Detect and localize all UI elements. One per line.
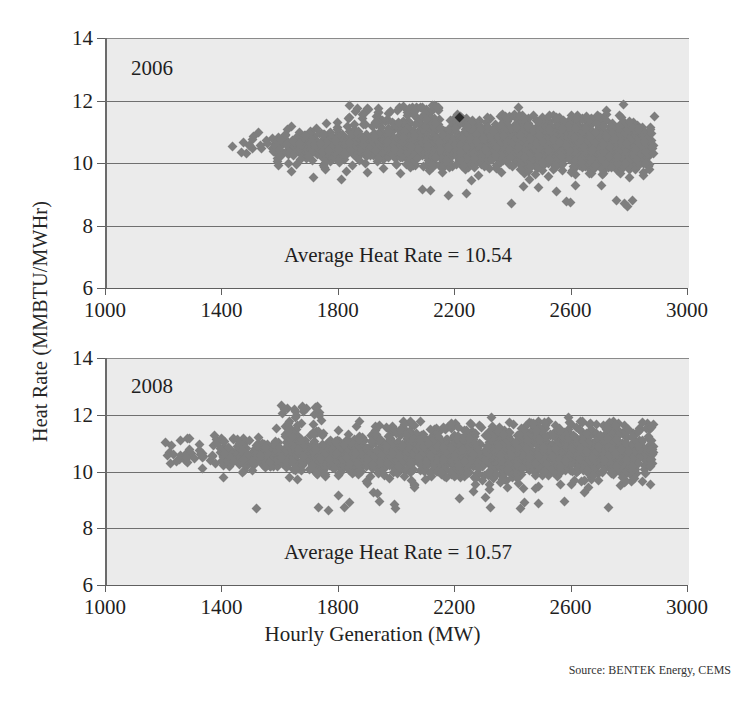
gridline-y-8	[107, 528, 689, 529]
y-tick-14	[97, 38, 105, 39]
y-tick-10	[97, 163, 105, 164]
y-tick-12	[97, 101, 105, 102]
x-axis-2006	[105, 288, 687, 289]
scatter-point	[552, 186, 562, 196]
scatter-point	[518, 181, 528, 191]
annotation-average-2008: Average Heat Rate = 10.57	[284, 540, 512, 565]
panel-2006: 2006 Average Heat Rate = 10.54	[105, 38, 689, 288]
scatter-point	[374, 497, 384, 507]
scatter-point	[333, 426, 343, 436]
x-tick-label-1800: 1800	[317, 298, 359, 323]
scatter-point	[314, 503, 324, 513]
scatter-point	[334, 490, 344, 500]
scatter-point	[379, 164, 389, 174]
y-tick-label-14: 14	[53, 26, 93, 51]
x-tick-label-2600: 2600	[550, 595, 592, 620]
y-tick-label-14: 14	[53, 346, 93, 371]
gridline-y-12	[107, 415, 689, 416]
panel-label-2008: 2008	[131, 374, 173, 399]
x-tick-2600	[571, 288, 572, 295]
x-tick-label-1800: 1800	[317, 595, 359, 620]
y-tick-14	[97, 358, 105, 359]
x-tick-label-2200: 2200	[433, 595, 475, 620]
scatter-point	[252, 503, 262, 513]
y-tick-8	[97, 226, 105, 227]
gridline-y-12	[107, 101, 689, 102]
x-tick-label-3000: 3000	[666, 298, 708, 323]
x-tick-3000	[687, 585, 688, 592]
scatter-point	[324, 505, 334, 515]
x-tick-label-1400: 1400	[200, 595, 242, 620]
y-tick-6	[97, 585, 105, 586]
scatter-point	[557, 166, 567, 176]
scatter-point	[559, 497, 569, 507]
scatter-point	[219, 473, 229, 483]
scatter-point	[506, 199, 516, 209]
panel-2008: 2008 Average Heat Rate = 10.57	[105, 358, 689, 585]
x-tick-label-3000: 3000	[666, 595, 708, 620]
scatter-point	[395, 169, 405, 179]
scatter-point	[649, 111, 659, 121]
scatter-point	[444, 190, 454, 200]
scatter-point	[426, 186, 436, 196]
x-tick-3000	[687, 288, 688, 295]
x-tick-label-2600: 2600	[550, 298, 592, 323]
y-tick-12	[97, 415, 105, 416]
x-tick-label-1000: 1000	[84, 595, 126, 620]
y-tick-label-12: 12	[53, 402, 93, 427]
x-tick-label-1000: 1000	[84, 298, 126, 323]
scatter-point	[462, 188, 472, 198]
scatter-point	[485, 502, 495, 512]
gridline-y-8	[107, 226, 689, 227]
y-tick-8	[97, 528, 105, 529]
x-axis-2008	[105, 585, 687, 586]
y-tick-label-12: 12	[53, 88, 93, 113]
y-tick-label-10: 10	[53, 459, 93, 484]
y-axis-title: Heat Rate (MMBTU/MWHr)	[29, 132, 52, 512]
y-tick-10	[97, 472, 105, 473]
x-tick-1800	[338, 288, 339, 295]
scatter-point	[534, 498, 544, 508]
y-tick-label-10: 10	[53, 151, 93, 176]
x-tick-1800	[338, 585, 339, 592]
scatter-point	[455, 493, 465, 503]
figure-scatter-heat-rate: Heat Rate (MMBTU/MWHr) 2006 Average Heat…	[0, 0, 745, 712]
x-axis-title: Hourly Generation (MW)	[0, 622, 745, 647]
x-tick-1400	[221, 585, 222, 592]
scatter-point	[228, 141, 238, 151]
scatter-point	[533, 183, 543, 193]
scatter-point	[363, 168, 373, 178]
source-note: Source: BENTEK Energy, CEMS	[569, 663, 731, 678]
y-tick-label-6: 6	[53, 573, 93, 598]
x-tick-1400	[221, 288, 222, 295]
gridline-y-14	[107, 38, 689, 39]
panel-label-2006: 2006	[131, 56, 173, 81]
scatter-point	[570, 180, 580, 190]
x-tick-label-2200: 2200	[433, 298, 475, 323]
x-tick-label-1400: 1400	[200, 298, 242, 323]
scatter-point	[309, 172, 319, 182]
x-tick-1000	[105, 288, 106, 295]
scatter-point	[597, 181, 607, 191]
x-tick-2200	[454, 585, 455, 592]
x-tick-2200	[454, 288, 455, 295]
y-tick-label-8: 8	[53, 516, 93, 541]
x-tick-1000	[105, 585, 106, 592]
y-tick-6	[97, 288, 105, 289]
gridline-y-14	[107, 358, 689, 359]
scatter-point	[271, 423, 281, 433]
y-tick-label-8: 8	[53, 213, 93, 238]
y-tick-label-6: 6	[53, 276, 93, 301]
x-tick-2600	[571, 585, 572, 592]
scatter-point	[604, 502, 614, 512]
annotation-average-2006: Average Heat Rate = 10.54	[284, 243, 512, 268]
